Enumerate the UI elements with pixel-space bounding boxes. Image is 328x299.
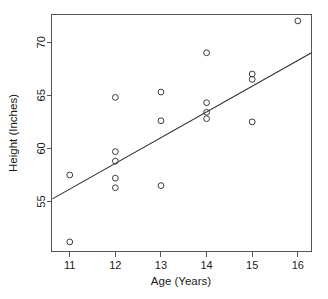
x-tick-label: 13 [155,259,167,271]
x-tick-label: 12 [109,259,121,271]
y-tick-label: 55 [36,195,48,207]
scatter-plot-figure: 55606570 111213141516 Age (Years) Height… [0,0,328,299]
x-axis-title: Age (Years) [151,275,211,287]
x-tick-label: 14 [200,259,212,271]
x-tick-label: 16 [292,259,304,271]
y-tick-label: 70 [36,36,48,48]
y-tick-label: 60 [36,142,48,154]
figure-background [0,0,328,299]
y-axis-title: Height (Inches) [7,94,19,172]
y-tick-label: 65 [36,89,48,101]
x-tick-label: 15 [246,259,258,271]
x-tick-label: 11 [64,259,75,271]
plot-canvas: 55606570 111213141516 Age (Years) Height… [0,0,328,299]
